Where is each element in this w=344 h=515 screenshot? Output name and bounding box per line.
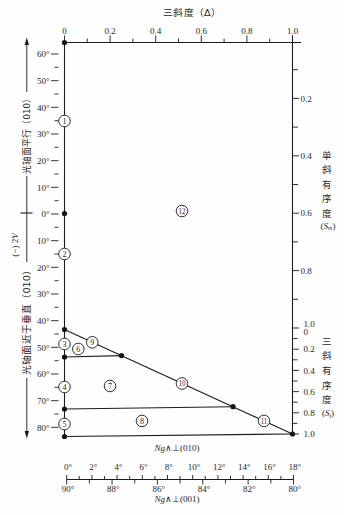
field-marker-11: 11 — [258, 415, 270, 427]
left-tick-label: 10° — [37, 183, 50, 193]
sm-title-char: 斜 — [322, 164, 332, 175]
st-title-char: 序 — [322, 380, 332, 391]
field-marker-10: 10 — [176, 378, 188, 390]
ng001-tick-label: 86° — [152, 484, 165, 494]
marker-number: 10 — [179, 379, 186, 388]
node-dot — [62, 434, 67, 439]
ng010-tick-label: 2° — [89, 462, 98, 472]
ng010-tick-label: 18° — [288, 462, 301, 472]
field-marker-8: 8 — [136, 415, 148, 427]
marker-number: 9 — [90, 338, 94, 347]
monoclinic-order-title: 单 斜 有 序 度 (Sm) — [321, 150, 336, 232]
left-tick-label: 70° — [37, 396, 50, 406]
right-axis: 0.2 0.4 0.6 0.8 1.0 0 0.2 0.4 0.6 0.8 1.… — [293, 36, 336, 440]
node-dot — [62, 406, 67, 411]
node-dot — [62, 354, 67, 359]
field-marker-5: 5 — [59, 418, 71, 430]
ng010-tick-label: 12° — [213, 462, 226, 472]
left-tick-label: 40° — [37, 316, 50, 326]
ng001-tick-label: 88° — [107, 484, 120, 494]
ng-symbol: Ng — [153, 443, 165, 453]
ng010-tick-label: 16° — [263, 462, 276, 472]
ng001-tick-label: 90° — [62, 484, 75, 494]
marker-number: 2 — [63, 250, 67, 259]
optic-plane-parallel-label: 光轴面平行（010） — [21, 94, 32, 174]
st-title-char: 三 — [322, 336, 332, 347]
negative-2v-label: (−) 2V — [10, 232, 20, 257]
triclinicity-diagram-page: 三斜度（Δ） 0 0.2 0.4 0.6 0.8 1.0 — [0, 0, 344, 515]
left-axis: 60° 50° 40° 30° 20° 10° 0° 10° 20° 30° 4… — [37, 49, 59, 432]
marker-number: 11 — [261, 417, 268, 426]
field-markers: 1 2 3 4 5 6 7 8 9 10 11 12 — [59, 115, 270, 430]
ng010-tick-label: 10° — [188, 462, 201, 472]
upper-short-boundary-line — [65, 356, 122, 357]
field-marker-12: 12 — [176, 205, 188, 217]
bottom-axis: Ng∧⊥(010) 0° 2° — [62, 443, 302, 504]
field-marker-7: 7 — [104, 380, 116, 392]
left-tick-label: 30° — [37, 129, 50, 139]
ng010-tick-label: 8° — [165, 462, 174, 472]
bottom-boundary-line — [65, 434, 293, 437]
ng001-tick-label: 84° — [198, 484, 211, 494]
sm-tick-label: 0.8 — [301, 266, 313, 276]
optic-plane-near-perpendicular-label: 光轴面近于垂直（010） — [21, 265, 32, 375]
left-tick-label: 40° — [37, 103, 50, 113]
sm-title-char: 度 — [322, 208, 332, 219]
field-marker-6: 6 — [73, 343, 85, 355]
left-tick-label: 20° — [37, 156, 50, 166]
st-title-char: 度 — [322, 394, 332, 405]
node-dot — [62, 327, 67, 332]
st-tick-label: 0.4 — [304, 366, 316, 376]
sm-title-char: 有 — [322, 179, 332, 190]
top-tick-label: 0.2 — [104, 26, 115, 36]
node-dot — [62, 40, 67, 45]
ng010-tick-label: 14° — [238, 462, 251, 472]
ng010-tick-label: 6° — [140, 462, 149, 472]
marker-number: 5 — [63, 420, 67, 429]
ng001-tick-label: 80° — [288, 484, 301, 494]
field-marker-3: 3 — [59, 338, 71, 350]
ng-010-axis-title: Ng∧⊥(010) — [153, 443, 199, 453]
optic-plane-annotation: 光轴面平行（010） (−) 2V 光轴面近于垂直（010） — [10, 38, 33, 439]
st-title-char: 斜 — [322, 350, 332, 361]
field-boundaries — [65, 43, 293, 437]
node-dot — [62, 211, 67, 216]
sm-close-paren: ) — [332, 221, 335, 231]
marker-number: 3 — [63, 340, 67, 349]
marker-number: 6 — [76, 345, 80, 354]
negative-2v-prefix: (−) 2 — [10, 239, 20, 257]
left-tick-label: 60° — [37, 369, 50, 379]
st-tick-label: 0.6 — [304, 387, 316, 397]
left-tick-label: 80° — [37, 423, 50, 433]
st-tick-label: 0 — [304, 327, 309, 337]
st-symbol: (St) — [322, 408, 334, 419]
ng-010-suffix: ∧⊥(010) — [165, 443, 200, 453]
sm-tick-label: 0.2 — [301, 94, 312, 104]
marker-number: 12 — [179, 207, 186, 216]
top-tick-label: 0.4 — [150, 26, 162, 36]
marker-number: 4 — [63, 383, 67, 392]
top-axis-title: 三斜度（Δ） — [163, 7, 221, 18]
sm-title-char: 单 — [322, 150, 332, 161]
st-close-paren: ) — [331, 408, 334, 418]
left-tick-label: 10° — [37, 236, 50, 246]
top-tick-label: 0.6 — [196, 26, 208, 36]
sm-tick-label: 0.4 — [301, 151, 313, 161]
arrow-up-icon — [25, 38, 29, 46]
top-tick-label: 0 — [62, 26, 67, 36]
marker-number: 7 — [108, 382, 112, 391]
arrow-down-icon — [25, 431, 29, 439]
sm-symbol: (Sm) — [321, 221, 336, 232]
field-marker-9: 9 — [87, 337, 99, 349]
triclinicity-diagram: 三斜度（Δ） 0 0.2 0.4 0.6 0.8 1.0 — [0, 0, 344, 515]
st-title-char: 有 — [322, 365, 332, 376]
top-tick-label: 0.8 — [241, 26, 253, 36]
top-tick-label: 1.0 — [287, 26, 299, 36]
node-dot — [290, 431, 295, 436]
ng-001-suffix: ∧⊥(001) — [165, 494, 200, 504]
left-tick-label: 50° — [37, 76, 50, 86]
left-tick-label: 20° — [37, 263, 50, 273]
triclinic-order-title: 三 斜 有 序 度 (St) — [322, 336, 334, 419]
ng-symbol: Ng — [153, 494, 165, 504]
sm-tick-label: 0.6 — [301, 208, 313, 218]
